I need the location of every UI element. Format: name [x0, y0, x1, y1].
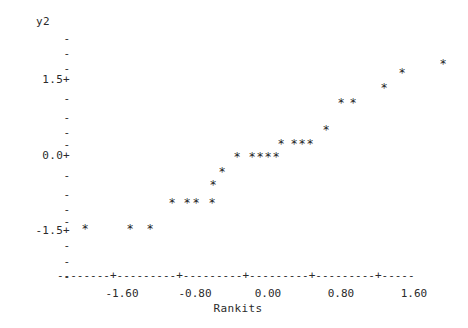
- data-point: *: [322, 124, 329, 136]
- data-point: *: [272, 151, 279, 163]
- data-point: *: [380, 82, 387, 94]
- y-axis-minor-tick: -: [63, 240, 70, 251]
- x-axis-tick-label: 1.60: [401, 288, 428, 299]
- data-point: *: [256, 151, 263, 163]
- y-axis-tick-label: 1.5+: [42, 74, 70, 85]
- x-axis-tick-label: -1.60: [105, 288, 138, 299]
- data-point: *: [81, 223, 88, 235]
- data-point: *: [398, 67, 405, 79]
- data-point: *: [277, 138, 284, 150]
- y-axis-minor-tick: -: [63, 33, 70, 44]
- data-point: *: [218, 166, 225, 178]
- data-point: *: [439, 58, 446, 70]
- y-axis-tick-label: 0.0+: [42, 150, 70, 161]
- data-point: *: [168, 197, 175, 209]
- x-axis-line: --------+---------+---------+---------+-…: [57, 270, 415, 281]
- data-point: *: [146, 223, 153, 235]
- data-point: *: [298, 138, 305, 150]
- rankit-plot-figure: y2 ---1.5+----0.0+-----1.5+--- *********…: [0, 0, 468, 328]
- data-point: *: [264, 151, 271, 163]
- x-axis-tick-label: 0.80: [328, 288, 355, 299]
- x-axis-title: Rankits: [213, 303, 262, 314]
- data-point: *: [290, 138, 297, 150]
- data-point: *: [349, 97, 356, 109]
- y-axis-title: y2: [36, 16, 50, 27]
- y-axis-minor-tick: -: [63, 127, 70, 138]
- data-point: *: [337, 97, 344, 109]
- y-axis-minor-tick: -: [63, 204, 70, 215]
- data-point: *: [209, 179, 216, 191]
- y-axis-minor-tick: -: [63, 170, 70, 181]
- y-axis-tick-label: -1.5+: [35, 225, 70, 236]
- data-point: *: [233, 151, 240, 163]
- y-axis-minor-tick: -: [63, 93, 70, 104]
- x-axis-tick-label: 0.00: [255, 288, 282, 299]
- data-point: *: [208, 197, 215, 209]
- data-point: *: [306, 138, 313, 150]
- y-axis-minor-tick: -: [63, 189, 70, 200]
- y-axis-minor-tick: -: [63, 48, 70, 59]
- x-axis-tick-label: -0.80: [178, 288, 211, 299]
- data-point: *: [192, 197, 199, 209]
- data-point: *: [248, 151, 255, 163]
- data-point: *: [183, 197, 190, 209]
- y-axis-minor-tick: -: [63, 256, 70, 267]
- y-axis-minor-tick: -: [63, 112, 70, 123]
- data-point: *: [126, 223, 133, 235]
